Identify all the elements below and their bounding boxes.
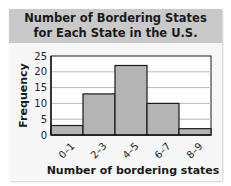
x-tick-label: 0–1 [56,140,76,160]
y-tick-label: 10 [34,98,47,109]
x-tick-label: 4–5 [120,140,140,160]
histogram-chart: 0510152025 0–12–34–56–78–9 Frequency Num… [0,0,231,186]
y-tick-label: 5 [41,114,47,125]
x-tick-labels: 0–12–34–56–78–9 [56,140,204,160]
bar [51,126,83,135]
x-tick-label: 2–3 [88,140,108,160]
y-tick-label: 20 [34,66,47,77]
y-tick-label: 15 [34,82,47,93]
y-tick-label: 25 [34,51,47,62]
bar [179,129,211,135]
y-axis-label: Frequency [17,63,30,127]
x-tick-label: 6–7 [152,140,172,160]
bar [147,103,179,135]
bar [83,94,115,135]
x-axis-label: Number of bordering states [47,164,220,177]
y-tick-labels: 0510152025 [34,51,47,141]
x-tick-label: 8–9 [184,140,204,160]
y-tick-label: 0 [41,130,47,141]
bar [115,65,147,135]
